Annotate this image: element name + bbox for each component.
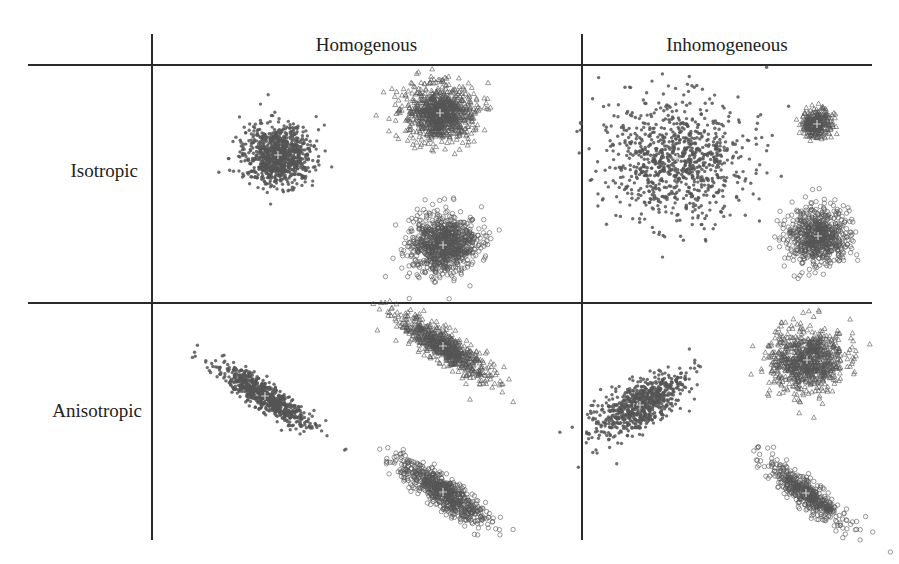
scatter-panel-anisotropic-inhomogeneous: [558, 308, 892, 555]
cluster-star: [558, 347, 702, 469]
cluster-circle: [378, 446, 516, 538]
cluster-star: [191, 344, 348, 452]
scatter-panel-isotropic-homogenous: [217, 67, 501, 301]
scatter-panel-isotropic-inhomogeneous: [575, 66, 860, 281]
cluster-triangle: [374, 67, 493, 156]
cluster-triangle: [749, 308, 873, 420]
cluster-circle: [768, 187, 860, 281]
cluster-circle: [752, 445, 893, 555]
scatter-panel-anisotropic-homogenous: [191, 298, 516, 537]
cluster-triangle: [794, 101, 839, 143]
cluster-triangle: [371, 298, 516, 403]
cluster-star: [217, 93, 333, 206]
cluster-scatter-plots: [0, 0, 899, 564]
cluster-circle: [383, 196, 501, 301]
